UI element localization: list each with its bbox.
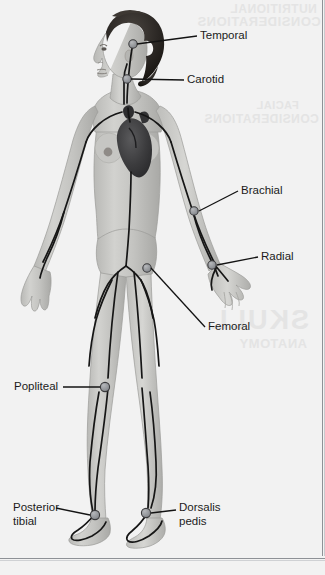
body-silhouette	[21, 10, 251, 548]
label-posterior-tibial: Posterior tibial	[13, 501, 59, 528]
label-femoral: Femoral	[208, 320, 250, 334]
pulse-marker-popliteal	[100, 382, 109, 391]
page-border-bottom-inner	[0, 560, 325, 561]
pulse-marker-posterior-tibial	[90, 510, 99, 519]
leader-radial	[217, 257, 258, 265]
page-border-bottom	[0, 558, 325, 559]
leader-femoral	[151, 268, 205, 327]
anatomical-figure	[0, 0, 325, 575]
label-carotid: Carotid	[187, 73, 224, 87]
leader-brachial	[199, 191, 238, 211]
label-radial: Radial	[261, 250, 294, 264]
label-brachial: Brachial	[241, 184, 283, 198]
leader-carotid	[131, 79, 184, 80]
pulse-marker-carotid	[123, 75, 131, 83]
pulse-marker-brachial	[190, 207, 198, 215]
page-border-right	[322, 0, 323, 556]
pulse-marker-dorsalis-pedis	[141, 508, 150, 517]
pulse-marker-femoral	[143, 264, 151, 272]
label-popliteal: Popliteal	[14, 380, 58, 394]
label-temporal: Temporal	[200, 29, 247, 43]
figure-panel: NUTRITIONAL CONSIDERATIONS FACIAL CONSID…	[0, 0, 325, 575]
pulse-marker-radial	[208, 261, 216, 269]
leader-posterior-tibial	[56, 508, 90, 515]
pulse-marker-temporal	[129, 40, 137, 48]
label-dorsalis-pedis: Dorsalis pedis	[179, 501, 221, 528]
